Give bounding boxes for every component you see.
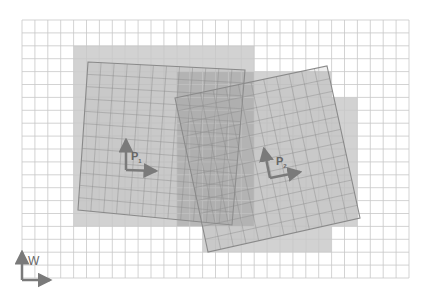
diagram-canvas: W P1 P2 — [0, 0, 426, 299]
p1-label: P1 — [131, 150, 142, 164]
w-label: W — [28, 254, 39, 268]
p2-label-sub: 2 — [283, 163, 286, 169]
p2-label: P2 — [276, 155, 287, 169]
local-grid-p2 — [175, 66, 360, 252]
coordinate-frames-diagram — [0, 0, 426, 299]
p1-label-sub: 1 — [138, 158, 141, 164]
